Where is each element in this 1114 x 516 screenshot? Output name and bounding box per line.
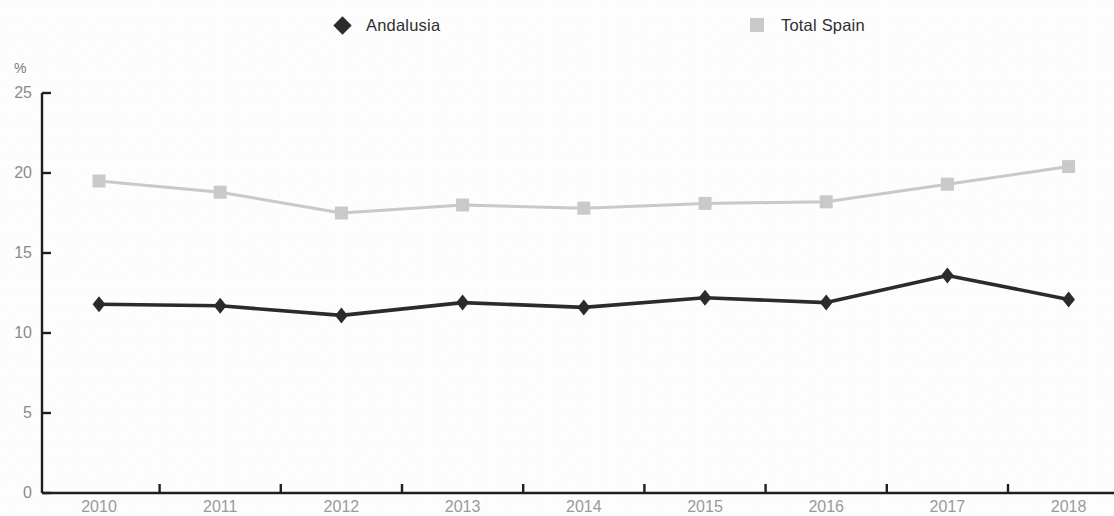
axes-layer	[42, 93, 1114, 493]
data-point-andalusia-5[interactable]	[699, 290, 712, 306]
chart-container: Andalusia Total Spain % 0510152025 20102…	[0, 0, 1114, 516]
data-point-total-spain-1[interactable]	[214, 186, 227, 199]
data-point-andalusia-3[interactable]	[456, 295, 469, 311]
data-point-andalusia-0[interactable]	[93, 296, 106, 312]
data-point-total-spain-8[interactable]	[1062, 160, 1075, 173]
data-point-total-spain-5[interactable]	[699, 197, 712, 210]
data-point-total-spain-2[interactable]	[335, 207, 348, 220]
data-point-andalusia-4[interactable]	[577, 299, 590, 315]
data-point-andalusia-8[interactable]	[1062, 291, 1075, 307]
data-point-andalusia-6[interactable]	[820, 295, 833, 311]
data-point-andalusia-1[interactable]	[214, 298, 227, 314]
data-point-andalusia-2[interactable]	[335, 307, 348, 323]
data-point-total-spain-6[interactable]	[820, 195, 833, 208]
data-point-total-spain-4[interactable]	[577, 202, 590, 215]
plot-area	[0, 0, 1114, 516]
data-point-total-spain-0[interactable]	[93, 175, 106, 188]
data-point-total-spain-3[interactable]	[456, 199, 469, 212]
data-point-total-spain-7[interactable]	[941, 178, 954, 191]
data-point-andalusia-7[interactable]	[941, 267, 954, 283]
series-layer	[93, 160, 1076, 323]
